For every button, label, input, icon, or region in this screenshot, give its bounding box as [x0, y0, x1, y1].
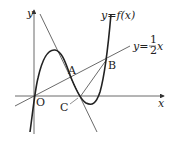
curve-label: y=f(x)	[100, 9, 135, 22]
point-b-label: B	[108, 59, 116, 72]
origin-label: O	[36, 96, 45, 109]
graph-diagram: y x O A B C y=f(x) y= 1 2 x	[0, 0, 174, 142]
line-label-var: x	[157, 40, 164, 53]
line-label-denominator: 2	[150, 44, 157, 57]
point-c-label: C	[60, 101, 68, 114]
x-axis-label: x	[158, 97, 165, 110]
c-pointer	[70, 98, 78, 104]
y-axis-label: y	[26, 7, 34, 20]
line-label-prefix: y=	[132, 40, 148, 53]
point-a-label: A	[67, 64, 77, 77]
